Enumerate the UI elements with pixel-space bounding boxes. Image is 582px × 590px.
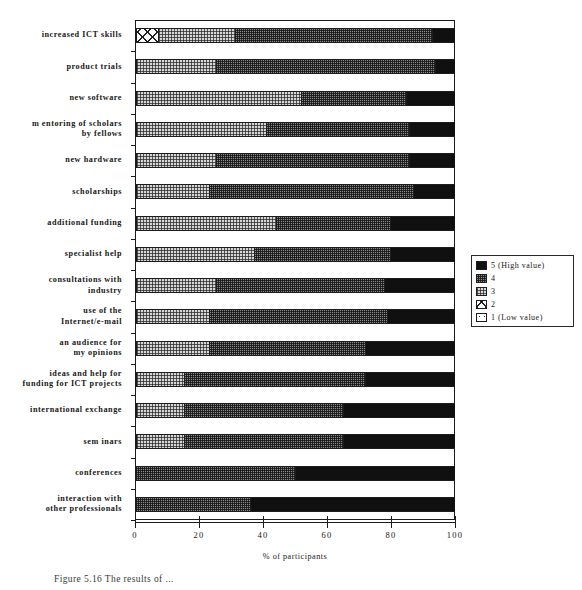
stacked-bar	[136, 466, 455, 481]
stacked-bar	[136, 309, 455, 324]
stacked-bar	[136, 91, 455, 106]
y-axis-category-label: an audience formy opinions	[0, 338, 122, 359]
bar-segment-level-4	[217, 60, 436, 73]
x-axis-tick-label: 60	[307, 530, 347, 540]
x-axis-line	[135, 522, 455, 523]
bar-segment-level-5	[344, 435, 455, 448]
bar-segment-level-4	[185, 373, 366, 386]
bar-segment-level-3	[137, 217, 277, 230]
stacked-bar	[136, 278, 455, 293]
stacked-bar	[136, 28, 455, 43]
stacked-bar	[136, 184, 455, 199]
legend-label: 1 (Low value)	[491, 313, 543, 322]
bar-row	[136, 91, 455, 106]
bar-segment-level-4	[185, 404, 344, 417]
stacked-bar	[136, 122, 455, 137]
y-axis-category-label: additional funding	[0, 218, 122, 229]
y-axis-tick	[131, 301, 136, 302]
category-label-line: consultations with	[0, 275, 122, 286]
category-label-line: conferences	[0, 468, 122, 479]
bar-segment-level-4	[210, 185, 414, 198]
legend-swatch-level-1	[476, 313, 487, 322]
stacked-bar	[136, 403, 455, 418]
category-label-line: sem inars	[0, 437, 122, 448]
category-label-line: funding for ICT projects	[0, 379, 122, 390]
bar-segment-level-5	[433, 29, 455, 42]
y-axis-tick	[131, 458, 136, 459]
y-axis-category-label: specialist help	[0, 249, 122, 260]
x-axis-tick-label: 80	[371, 530, 411, 540]
bar-row	[136, 497, 455, 512]
category-label-line: new hardware	[0, 155, 122, 166]
category-label-line: scholarships	[0, 187, 122, 198]
bar-row	[136, 466, 455, 481]
stacked-bar	[136, 341, 455, 356]
category-label-line: industry	[0, 286, 122, 297]
y-axis-category-label: scholarships	[0, 187, 122, 198]
y-axis-category-label: consultations withindustry	[0, 275, 122, 296]
bar-segment-level-3	[137, 373, 185, 386]
y-axis-category-label: increased ICT skills	[0, 30, 122, 41]
bar-segment-level-5	[366, 342, 455, 355]
legend-swatch-level-4	[476, 274, 487, 283]
plot-area	[135, 20, 455, 520]
y-axis-tick	[131, 270, 136, 271]
legend-swatch-level-2	[476, 300, 487, 309]
legend: 5 (High value)4321 (Low value)	[471, 255, 574, 327]
x-axis-title: % of participants	[135, 552, 455, 561]
bar-segment-level-5	[407, 92, 455, 105]
legend-item: 3	[476, 285, 570, 297]
category-label-line: additional funding	[0, 218, 122, 229]
legend-swatch-level-5	[476, 261, 487, 270]
stacked-bar	[136, 153, 455, 168]
bar-row	[136, 309, 455, 324]
bar-segment-level-3	[137, 248, 255, 261]
category-label-line: by fellows	[0, 129, 122, 140]
bar-segment-level-3	[137, 154, 217, 167]
y-axis-tick	[131, 426, 136, 427]
bar-segment-level-3	[159, 29, 235, 42]
y-axis-category-label: conferences	[0, 468, 122, 479]
bar-segment-level-3	[137, 435, 185, 448]
y-axis-tick	[131, 114, 136, 115]
x-axis-tick	[199, 516, 200, 528]
category-label-line: ideas and help for	[0, 369, 122, 380]
bar-row	[136, 247, 455, 262]
legend-label: 5 (High value)	[491, 261, 545, 270]
x-axis-tick-label: 0	[115, 530, 155, 540]
y-axis-category-labels: increased ICT skillsproduct trialsnew so…	[0, 20, 128, 520]
y-axis-category-label: sem inars	[0, 437, 122, 448]
category-label-line: an audience for	[0, 338, 122, 349]
bar-row	[136, 184, 455, 199]
category-label-line: interaction with	[0, 494, 122, 505]
bar-segment-level-4	[236, 29, 433, 42]
bar-segment-level-5	[391, 217, 455, 230]
category-label-line: increased ICT skills	[0, 30, 122, 41]
bar-segment-level-5	[385, 279, 455, 292]
bar-segment-level-3	[137, 185, 210, 198]
stacked-bar	[136, 372, 455, 387]
y-axis-category-label: new hardware	[0, 155, 122, 166]
bar-row	[136, 434, 455, 449]
legend-label: 2	[491, 300, 496, 309]
y-axis-tick	[131, 176, 136, 177]
bar-segment-level-4	[267, 123, 410, 136]
bar-segment-level-3	[137, 404, 185, 417]
legend-swatch-level-3	[476, 287, 487, 296]
y-axis-tick	[131, 239, 136, 240]
y-axis-tick	[131, 145, 136, 146]
bar-segment-level-4	[185, 435, 344, 448]
plot-frame-bottom	[135, 519, 455, 520]
bar-segment-level-4	[277, 217, 391, 230]
category-label-line: international exchange	[0, 405, 122, 416]
category-label-line: specialist help	[0, 249, 122, 260]
x-axis-tick	[391, 516, 392, 528]
legend-item: 4	[476, 272, 570, 284]
stacked-bar	[136, 247, 455, 262]
figure-stacked-bar-chart: increased ICT skillsproduct trialsnew so…	[0, 0, 582, 590]
figure-caption: Figure 5.16 The results of ...	[54, 574, 554, 584]
y-axis-category-label: interaction withother professionals	[0, 494, 122, 515]
legend-label: 3	[491, 287, 496, 296]
bar-segment-level-5	[366, 373, 455, 386]
category-label-line: my opinions	[0, 348, 122, 359]
